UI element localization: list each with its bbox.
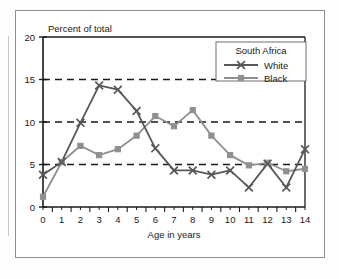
data-point-black-9 (209, 133, 214, 138)
x-tick-label-11: 11 (244, 214, 254, 225)
y-tick-label-5: 5 (30, 159, 35, 170)
x-tick-label-7: 7 (171, 214, 176, 225)
x-axis-title: Age in years (148, 229, 201, 240)
y-tick-label-10: 10 (24, 117, 35, 128)
x-tick-label-2: 2 (78, 214, 83, 225)
x-tick-label-5: 5 (134, 214, 139, 225)
data-point-black-0 (40, 194, 45, 199)
x-tick-label-12: 12 (262, 214, 273, 225)
x-tick-label-4: 4 (115, 214, 120, 225)
y-tick-label-20: 20 (24, 32, 35, 43)
data-point-black-7 (171, 124, 176, 129)
data-point-black-3 (97, 153, 102, 158)
line-chart: 0510152001234567891011121314Percent of t… (0, 0, 339, 279)
x-tick-label-9: 9 (209, 214, 214, 225)
x-tick-label-1: 1 (59, 214, 64, 225)
data-point-black-2 (78, 143, 83, 148)
y-tick-label-15: 15 (24, 74, 35, 85)
legend-square-marker-icon (238, 75, 243, 80)
x-tick-label-0: 0 (40, 214, 45, 225)
data-point-black-13 (284, 169, 289, 174)
x-tick-label-13: 13 (281, 214, 292, 225)
data-point-black-4 (115, 147, 120, 152)
data-point-black-11 (246, 163, 251, 168)
figure-root: 0510152001234567891011121314Percent of t… (0, 0, 339, 279)
data-point-black-6 (153, 113, 158, 118)
legend-label-black: Black (264, 73, 287, 84)
data-point-black-10 (228, 153, 233, 158)
y-tick-label-0: 0 (30, 202, 35, 213)
data-point-black-5 (134, 133, 139, 138)
legend-title: South Africa (235, 45, 287, 56)
x-tick-label-10: 10 (225, 214, 236, 225)
x-tick-label-14: 14 (300, 214, 311, 225)
x-tick-label-6: 6 (153, 214, 158, 225)
x-tick-label-8: 8 (190, 214, 195, 225)
x-tick-label-3: 3 (96, 214, 101, 225)
data-point-black-14 (302, 166, 307, 171)
chart-top-label: Percent of total (48, 23, 112, 34)
data-point-black-8 (190, 108, 195, 113)
legend-label-white: White (264, 60, 288, 71)
